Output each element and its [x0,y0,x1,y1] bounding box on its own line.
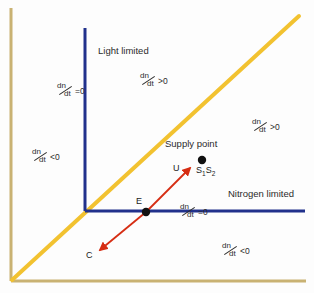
rate-label-lower-right: dn dt <0 [222,242,250,259]
region-label-nitrogen-limited: Nitrogen limited [228,189,294,199]
rate-relation: =0 [75,86,85,96]
rate-relation: =0 [198,207,208,217]
rate-label-horizontal-zngi: dn dt =0 [180,203,208,220]
rate-label-right: dn dt >0 [252,118,280,135]
rate-denominator: dt [147,79,154,88]
figure-graphics [0,0,314,293]
supply-point-label: S1S2 [196,165,215,177]
supply-point-caption: Supply point [165,139,217,149]
vector-C-arrow [100,212,146,250]
rate-label-left: dn dt <0 [32,148,60,165]
equilibrium-point-label: E [136,196,142,206]
rate-denominator: dt [39,155,46,164]
rate-denominator: dt [259,125,266,134]
region-label-light-limited: Light limited [98,46,149,56]
supply-point-sub-2: 2 [212,170,216,177]
rate-relation: <0 [50,152,60,162]
rate-denominator: dt [229,249,236,258]
vector-label-U: U [173,163,180,173]
rate-relation: >0 [158,76,168,86]
rate-denominator: dt [64,89,71,98]
rate-relation: >0 [270,122,280,132]
rate-label-vertical-zngi: dn dt =0 [57,82,85,99]
equilibrium-point-marker [142,208,150,216]
consumption-vector-label: C [86,250,93,260]
rate-label-upper-middle: dn dt >0 [140,72,168,89]
rate-relation: <0 [240,246,250,256]
rate-denominator: dt [187,210,194,219]
figure-canvas: Light limited Nitrogen limited dn dt =0 … [0,0,314,293]
supply-point-marker [198,156,206,164]
